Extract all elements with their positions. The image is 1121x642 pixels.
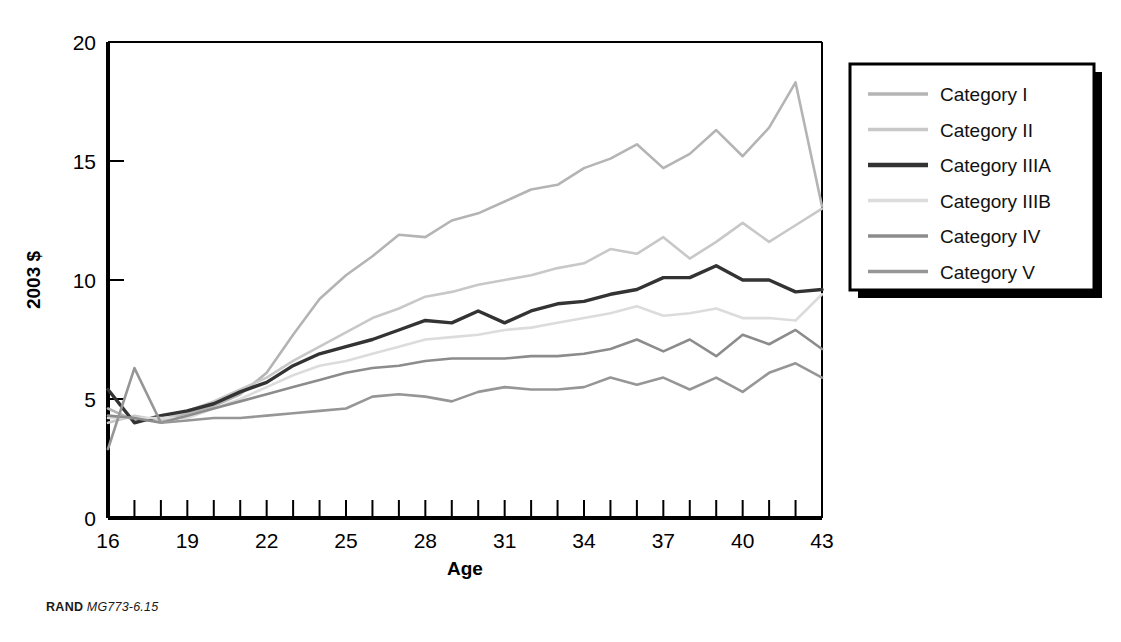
x-axis-tick-label: 37 <box>652 529 675 552</box>
x-axis-tick-label: 25 <box>334 529 357 552</box>
y-axis-tick-label: 20 <box>73 31 96 54</box>
x-axis-tick-label: 16 <box>96 529 119 552</box>
x-axis-tick-labels: 16192225283134374043 <box>96 529 833 552</box>
legend-item-label: Category I <box>940 84 1028 105</box>
x-axis-tick-label: 43 <box>810 529 833 552</box>
legend-item-label: Category IIIA <box>940 155 1051 176</box>
caption-figure-id: MG773-6.15 <box>87 600 158 614</box>
y-axis-tick-label: 0 <box>84 507 96 530</box>
legend-item-label: Category IIIB <box>940 191 1051 212</box>
caption-org: RAND <box>46 600 83 614</box>
series-line <box>108 330 822 423</box>
y-axis-tick-label: 10 <box>73 269 96 292</box>
legend: Category ICategory IICategory IIIACatego… <box>850 64 1102 298</box>
chart-series-group <box>108 82 822 449</box>
line-chart-figure: 05101520 16192225283134374043 Age 2003 $… <box>0 0 1121 642</box>
y-axis-title: 2003 $ <box>23 251 44 310</box>
x-axis-tick-label: 19 <box>176 529 199 552</box>
series-line <box>108 82 822 420</box>
x-axis-ticks <box>134 500 795 518</box>
x-axis-tick-label: 34 <box>572 529 596 552</box>
legend-item-label: Category IV <box>940 226 1041 247</box>
y-axis-tick-label: 5 <box>84 388 96 411</box>
legend-item-label: Category II <box>940 120 1033 141</box>
x-axis-tick-label: 22 <box>255 529 278 552</box>
x-axis-tick-label: 40 <box>731 529 754 552</box>
y-axis-tick-label: 15 <box>73 150 96 173</box>
plot-frame <box>108 42 822 518</box>
y-axis-tick-labels: 05101520 <box>73 31 96 530</box>
x-axis-tick-label: 28 <box>414 529 437 552</box>
y-axis-ticks <box>108 161 124 399</box>
figure-caption: RAND MG773-6.15 <box>46 600 158 614</box>
x-axis-title: Age <box>447 558 483 579</box>
x-axis-tick-label: 31 <box>493 529 516 552</box>
legend-item-label: Category V <box>940 262 1035 283</box>
